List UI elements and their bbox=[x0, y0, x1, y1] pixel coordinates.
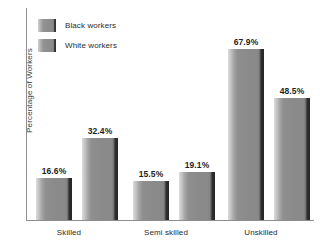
x-axis-category-label-unskilled: Unskilled bbox=[206, 228, 316, 237]
bar-group-skilled: 16.6% 32.4% bbox=[26, 8, 126, 220]
bar-value-label: 15.5% bbox=[126, 169, 176, 179]
bar-value-label: 67.9% bbox=[221, 37, 271, 47]
bar-value-label: 19.1% bbox=[172, 160, 222, 170]
x-axis-category-label-skilled: Skilled bbox=[14, 228, 124, 237]
x-axis-line bbox=[26, 220, 314, 221]
bar-value-label: 48.5% bbox=[267, 86, 317, 96]
plot-area: 16.6% 32.4% 15.5% 19.1% 67.9% bbox=[26, 8, 314, 220]
bar-rect bbox=[82, 138, 118, 220]
bar-rect bbox=[179, 172, 215, 220]
bar-group-semi-skilled: 15.5% 19.1% bbox=[123, 8, 223, 220]
bar-chart: Percentage of Workers Black workers Whit… bbox=[0, 0, 322, 247]
bar-rect bbox=[274, 98, 310, 220]
bar-rect bbox=[228, 49, 264, 220]
bar-group-unskilled: 67.9% 48.5% bbox=[218, 8, 318, 220]
bar-rect bbox=[133, 181, 169, 220]
bar-value-label: 32.4% bbox=[75, 126, 125, 136]
bar-rect bbox=[36, 178, 72, 220]
bar-value-label: 16.6% bbox=[29, 166, 79, 176]
x-axis-category-label-semi-skilled: Semi skilled bbox=[111, 228, 221, 237]
